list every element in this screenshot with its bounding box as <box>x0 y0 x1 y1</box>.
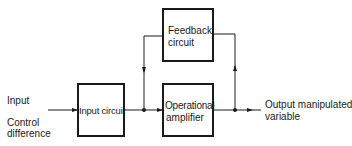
operational-amplifier-block: Operational amplifier <box>162 83 214 137</box>
difference-label: difference <box>7 128 51 140</box>
output-junction-dot <box>233 108 237 112</box>
output-label-line1: Output manipulated <box>265 99 352 111</box>
input-label: Input <box>7 95 29 107</box>
input-circuit-block: Input circuit <box>77 83 125 137</box>
feedback-circuit-block: Feedback circuit <box>162 8 214 62</box>
output-label-line2: variable <box>265 111 300 123</box>
summing-junction-dot <box>142 108 146 112</box>
opamp-label-line1: Operational <box>165 100 215 112</box>
opamp-label-line2: amplifier <box>166 112 204 124</box>
input-circuit-label: Input circuit <box>79 105 125 117</box>
feedback-circuit-label-line1: Feedback <box>168 25 212 37</box>
feedback-circuit-label-line2: circuit <box>168 37 194 49</box>
